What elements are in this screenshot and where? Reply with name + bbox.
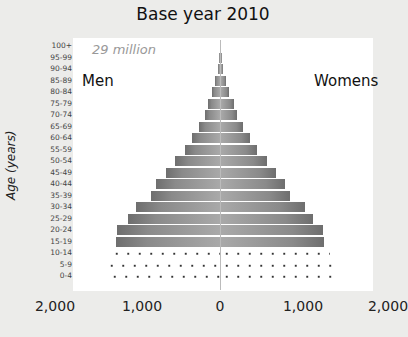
women-bar: [221, 248, 330, 258]
age-label: 35-39: [28, 190, 72, 202]
men-bar: [199, 122, 220, 132]
men-bar: [185, 145, 220, 155]
men-bar: [166, 168, 220, 178]
age-label: 45-49: [28, 167, 72, 179]
women-bar: [221, 260, 334, 270]
age-label: 25-29: [28, 213, 72, 225]
men-bar: [109, 271, 220, 281]
age-label: 80-84: [28, 86, 72, 98]
men-bar: [218, 64, 220, 74]
age-label: 100+: [28, 40, 72, 52]
women-bar: [221, 168, 276, 178]
men-bar: [156, 179, 220, 189]
men-bar: [205, 110, 220, 120]
women-bar: [221, 214, 313, 224]
women-bar: [221, 202, 305, 212]
age-label: 85-89: [28, 75, 72, 87]
men-bar: [128, 214, 220, 224]
men-bar: [151, 191, 220, 201]
chart-title: Base year 2010: [0, 4, 406, 24]
men-legend-label: Men: [82, 72, 114, 90]
age-label: 50-54: [28, 155, 72, 167]
total-population-label: 29 million: [92, 42, 156, 57]
women-bar: [221, 156, 267, 166]
x-tick-label: 2,000: [368, 298, 408, 314]
women-bar: [221, 87, 229, 97]
men-bar: [117, 225, 220, 235]
women-bar: [221, 271, 334, 281]
age-label: 10-14: [28, 247, 72, 259]
women-legend-label: Womens: [314, 72, 378, 90]
men-bar: [219, 53, 220, 63]
men-bar: [192, 133, 220, 143]
women-bar: [221, 99, 234, 109]
age-label: 0-4: [28, 270, 72, 282]
men-bar: [116, 237, 220, 247]
age-label: 60-64: [28, 132, 72, 144]
age-label: 55-59: [28, 144, 72, 156]
y-axis-title: Age (years): [4, 131, 18, 200]
men-bar: [215, 76, 220, 86]
age-label: 40-44: [28, 178, 72, 190]
women-bar: [221, 133, 250, 143]
women-bar: [221, 53, 222, 63]
men-bar: [175, 156, 220, 166]
age-label: 70-74: [28, 109, 72, 121]
x-tick-label: 1,000: [122, 298, 162, 314]
women-bar: [221, 225, 323, 235]
men-bar: [208, 99, 220, 109]
women-bar: [221, 237, 324, 247]
women-bar: [221, 191, 290, 201]
age-label: 90-94: [28, 63, 72, 75]
women-bar: [221, 64, 223, 74]
x-tick-label: 0: [216, 298, 225, 314]
age-label: 75-79: [28, 98, 72, 110]
age-label: 15-19: [28, 236, 72, 248]
age-label: 65-69: [28, 121, 72, 133]
x-tick-label: 2,000: [35, 298, 75, 314]
women-bar: [221, 179, 285, 189]
women-bar: [221, 76, 226, 86]
age-label: 30-34: [28, 201, 72, 213]
x-tick-label: 1,000: [283, 298, 323, 314]
women-bar: [221, 145, 257, 155]
men-bar: [136, 202, 220, 212]
age-label: 20-24: [28, 224, 72, 236]
age-label: 5-9: [28, 259, 72, 271]
women-bar: [221, 110, 237, 120]
men-bar: [212, 87, 220, 97]
age-label: 95-99: [28, 52, 72, 64]
men-bar: [106, 260, 220, 270]
women-bar: [221, 122, 243, 132]
men-bar: [111, 248, 220, 258]
